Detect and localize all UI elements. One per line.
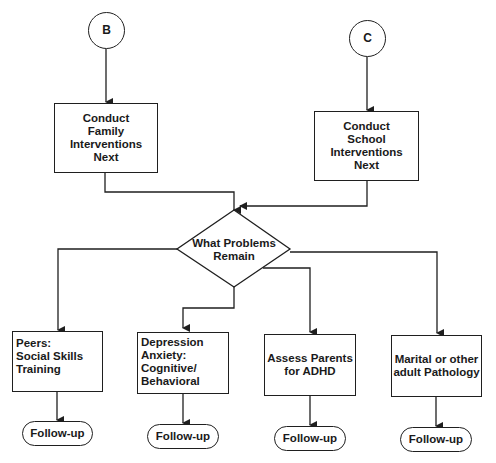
box-text-line: School Interventions (315, 133, 418, 159)
box-text-line: Next (94, 151, 119, 164)
box-text-line: Social Skills (16, 350, 83, 363)
box-text-line: Depression (141, 336, 204, 349)
follow-up-label: Follow-up (283, 432, 337, 445)
connector-c: C (349, 20, 386, 57)
follow-up-terminal-depression: Follow-up (147, 424, 219, 449)
box-text-line: Anxiety: (141, 349, 186, 362)
box-text-line: Marital or other (395, 353, 479, 366)
branch-box-adult-pathology: Marital or other adult Pathology (391, 335, 482, 397)
follow-up-terminal-adult: Follow-up (400, 427, 472, 452)
box-text-line: Family (88, 125, 124, 138)
connector-c-label: C (363, 32, 372, 45)
box-text-line: Assess Parents (267, 352, 353, 365)
follow-up-label: Follow-up (30, 427, 84, 440)
connector-b-label: B (102, 24, 111, 37)
follow-up-label: Follow-up (156, 430, 210, 443)
school-interventions-box: Conduct School Interventions Next (314, 111, 419, 181)
branch-box-depression-anxiety: Depression Anxiety: Cognitive/ Behaviora… (137, 332, 229, 394)
box-text-line: Behavioral (141, 375, 200, 388)
follow-up-terminal-peers: Follow-up (22, 421, 93, 446)
box-text-line: for ADHD (284, 365, 335, 378)
branch-box-peers: Peers: Social Skills Training (12, 331, 103, 392)
follow-up-label: Follow-up (409, 433, 463, 446)
box-text-line: Interventions (70, 138, 142, 151)
box-text-line: Conduct (83, 112, 130, 125)
decision-text-line: Remain (174, 250, 294, 263)
box-text-line: adult Pathology (393, 366, 479, 379)
family-interventions-box: Conduct Family Interventions Next (54, 103, 158, 173)
connector-b: B (88, 12, 125, 49)
box-text-line: Cognitive/ (141, 362, 197, 375)
follow-up-terminal-adhd: Follow-up (274, 426, 346, 451)
decision-what-problems-remain: What Problems Remain (174, 237, 294, 263)
box-text-line: Conduct (343, 120, 390, 133)
decision-text-line: What Problems (174, 237, 294, 250)
box-text-line: Training (16, 363, 61, 376)
branch-box-parents-adhd: Assess Parents for ADHD (264, 334, 356, 396)
box-text-line: Next (354, 159, 379, 172)
box-text-line: Peers: (16, 337, 51, 350)
